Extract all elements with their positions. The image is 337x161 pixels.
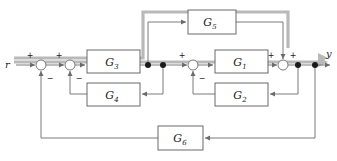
node-N4[interactable] <box>312 62 318 68</box>
sign-s2-plus: + <box>56 51 63 60</box>
block-diagram-figure: G5 G3 G1 G4 G2 G6 <box>0 0 337 161</box>
transfer-function-blocks <box>87 10 268 150</box>
sign-s3-minus: − <box>199 74 206 83</box>
diagram-canvas: G5 G3 G1 G4 G2 G6 <box>0 0 337 161</box>
summing-junction-S1[interactable] <box>36 60 46 70</box>
sign-s2-minus: − <box>76 74 83 83</box>
summing-junction-S4[interactable] <box>278 60 288 70</box>
wire-n2-to-g4 <box>142 65 163 94</box>
r-input-label: r <box>5 59 11 70</box>
signal-lines <box>16 22 330 138</box>
sign-s3-plus: + <box>179 51 186 60</box>
sign-s4-plus-right: + <box>290 51 297 60</box>
summing-junction-S2[interactable] <box>65 60 75 70</box>
summing-junction-S3[interactable] <box>188 60 198 70</box>
sign-s1-minus: − <box>47 74 54 83</box>
node-N3[interactable] <box>295 62 301 68</box>
sign-s4-plus-left: + <box>268 51 275 60</box>
node-N2[interactable] <box>160 62 166 68</box>
sign-s1-plus: + <box>27 51 34 60</box>
node-N1[interactable] <box>145 62 151 68</box>
y-output-label: y <box>325 48 332 59</box>
